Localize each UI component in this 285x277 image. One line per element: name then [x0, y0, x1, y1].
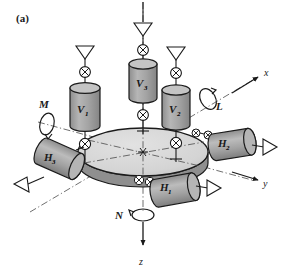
horizontal-actuator-h3: H 3 — [14, 136, 88, 192]
v2-label-subscript: 2 — [176, 110, 181, 118]
v1-cylinder-body — [70, 83, 100, 132]
moment-label-l: L — [215, 100, 223, 112]
h1-label-subscript: 1 — [168, 188, 172, 196]
axis-arrow-x — [232, 77, 258, 93]
h3-label-subscript: 3 — [51, 158, 56, 166]
moment-symbol-m — [38, 112, 57, 139]
moment-label-m: M — [38, 98, 50, 110]
axis-label-x: x — [263, 67, 269, 78]
moment-symbol-n — [129, 209, 154, 221]
v1-top-support-triangle — [76, 46, 94, 59]
v3-top-support-triangle — [134, 23, 152, 36]
figure-panel-a: (a) — [0, 0, 285, 277]
axis-label-z: z — [138, 256, 143, 267]
v1-upper-joint — [80, 67, 91, 78]
v3-upper-joint — [138, 45, 149, 56]
v1-label-subscript: 1 — [85, 110, 89, 118]
v2-lower-joint — [170, 137, 181, 148]
n-rotation-ellipse — [132, 209, 154, 221]
h2-joint-inner — [192, 129, 200, 137]
axis-label-y: y — [262, 178, 268, 189]
h1-support-triangle — [207, 180, 221, 196]
moment-label-n: N — [114, 209, 124, 221]
v3-label-subscript: 3 — [143, 84, 148, 92]
h2-joint-connector — [200, 133, 204, 134]
v2-top-support-triangle — [167, 47, 185, 60]
vertical-actuator-v3: V 3 — [129, 2, 157, 134]
panel-label: (a) — [16, 12, 29, 25]
h1-joint-inner — [134, 175, 143, 184]
m-rotation-ellipse — [38, 112, 57, 137]
h3-rod — [28, 177, 44, 184]
axis-arrow-y — [232, 172, 258, 180]
v3-lower-joint — [138, 110, 149, 121]
h2-support-triangle — [263, 139, 277, 155]
h3-support-triangle — [14, 177, 29, 192]
v2-upper-joint — [171, 68, 182, 79]
mechanism-diagram-svg: (a) — [0, 0, 285, 277]
h2-label-subscript: 2 — [225, 144, 230, 152]
